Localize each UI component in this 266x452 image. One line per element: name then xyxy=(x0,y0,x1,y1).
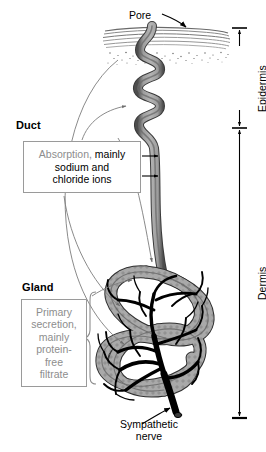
secretion-line5: free xyxy=(45,356,63,368)
gland-label: Gland xyxy=(22,281,54,293)
absorption-lead-word: Absorption, xyxy=(39,148,92,160)
nerve-label-line2: nerve xyxy=(136,430,162,442)
sweat-gland-diagram: Pore Duct Gland Absorption, mainly sodiu… xyxy=(0,0,266,452)
epidermis-label: Epidermis xyxy=(256,65,266,112)
secretion-line6: filtrate xyxy=(40,368,69,380)
absorption-callout: Absorption, mainly sodium and chloride i… xyxy=(23,141,141,193)
duct-label: Duct xyxy=(16,119,41,131)
skin-surface-layer xyxy=(103,27,230,65)
secretion-callout: Primary secretion, mainly protein- free … xyxy=(21,299,87,387)
absorption-line3: chloride ions xyxy=(53,173,112,185)
sympathetic-nerve-label: Sympathetic nerve xyxy=(94,418,204,442)
absorption-line2: sodium and xyxy=(55,161,109,173)
dermis-label: Dermis xyxy=(256,267,266,300)
secretion-line2: secretion, xyxy=(31,318,77,330)
dermis-scale-bar xyxy=(232,130,247,418)
secretion-line4: protein- xyxy=(36,343,72,355)
absorption-rest-line1: mainly xyxy=(92,148,125,160)
sweat-duct xyxy=(138,26,163,276)
secretion-line1: Primary xyxy=(36,306,72,318)
pore-arrow xyxy=(162,14,186,27)
dermal-stipple xyxy=(108,52,229,65)
secretion-line3: mainly xyxy=(39,331,69,343)
scale-bars xyxy=(232,28,247,418)
epidermis-scale-bar xyxy=(232,28,247,126)
nerve-label-line1: Sympathetic xyxy=(120,418,178,430)
pore-label: Pore xyxy=(129,9,151,21)
